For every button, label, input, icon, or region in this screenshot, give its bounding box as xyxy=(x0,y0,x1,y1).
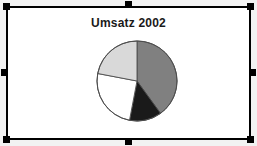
chart-title: Umsatz 2002 xyxy=(8,16,249,30)
pie-slice-4[interactable] xyxy=(98,41,137,81)
resize-handle-middle-left[interactable] xyxy=(1,69,8,76)
resize-handle-top-left[interactable] xyxy=(3,3,10,10)
resize-handle-top-right[interactable] xyxy=(247,3,254,10)
chart-object-canvas: Umsatz 2002 xyxy=(0,0,257,146)
chart-frame[interactable]: Umsatz 2002 xyxy=(6,6,251,140)
resize-handle-bottom-center[interactable] xyxy=(125,138,132,145)
pie-chart[interactable] xyxy=(95,39,179,123)
resize-handle-top-center[interactable] xyxy=(125,1,132,8)
resize-handle-bottom-right[interactable] xyxy=(247,136,254,143)
resize-handle-middle-right[interactable] xyxy=(249,69,256,76)
pie-slice-3[interactable] xyxy=(97,74,137,121)
pie-chart-svg xyxy=(95,39,179,123)
resize-handle-bottom-left[interactable] xyxy=(3,136,10,143)
